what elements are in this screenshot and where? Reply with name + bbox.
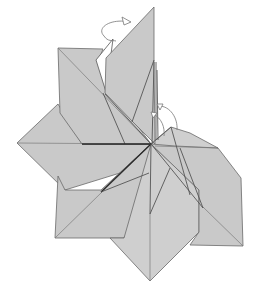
upper-right-flap [151,127,218,148]
fold-over-arrow-outer [159,106,177,130]
fold-behind-arrow-head [122,17,131,25]
origami-diagram [0,0,260,288]
diagram-canvas [0,0,260,288]
